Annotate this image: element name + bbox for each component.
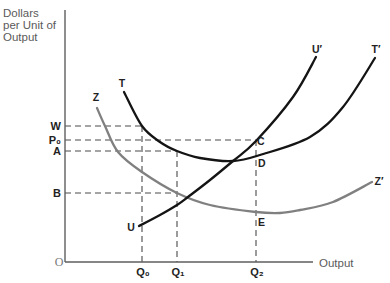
- x-guides: [142, 126, 256, 262]
- y-axis-title-line-1: Dollars: [3, 7, 39, 19]
- y-tick-a: A: [53, 145, 61, 157]
- curve-u: [139, 57, 316, 226]
- y-axis-title: Dollars per Unit of Output: [3, 7, 57, 43]
- curve-u-start-label: U: [127, 221, 135, 233]
- cost-curves-chart: Dollars per Unit of Output T T′ U U′ Z Z…: [0, 0, 390, 283]
- y-tick-b: B: [53, 187, 61, 199]
- y-tick-w: W: [51, 120, 62, 132]
- x-tick-q0: Q₀: [136, 266, 150, 278]
- x-tick-q1: Q₁: [171, 266, 185, 278]
- curve-t-start-label: T: [119, 77, 126, 89]
- curve-t: [124, 58, 375, 161]
- y-axis-title-line-3: Output: [3, 31, 38, 43]
- point-label-e: E: [258, 216, 265, 228]
- curve-u-end-label: U′: [312, 43, 323, 55]
- x-tick-q2: Q₂: [250, 266, 264, 278]
- point-label-d: D: [258, 157, 266, 169]
- curve-z-end-label: Z′: [375, 175, 384, 187]
- x-axis-title: Output: [319, 257, 354, 269]
- y-axis-title-line-2: per Unit of: [3, 19, 57, 31]
- point-label-c: C: [257, 135, 265, 147]
- curve-t-end-label: T′: [372, 43, 381, 55]
- curve-z-start-label: Z: [93, 91, 100, 103]
- origin-label: O: [55, 255, 64, 269]
